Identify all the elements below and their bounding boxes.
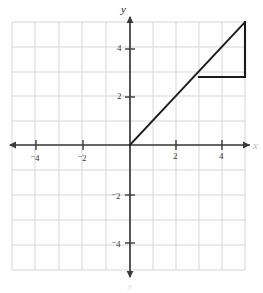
y-tick-label-neg4: –4 xyxy=(112,238,121,249)
x-tick-label-neg4: –4 xyxy=(31,152,40,163)
y-tick-label-2: 2 xyxy=(117,92,122,101)
x-axis-label: x xyxy=(253,140,258,151)
x-tick-label-neg2: –2 xyxy=(78,152,87,163)
x-tick-label-2: 2 xyxy=(173,152,178,161)
coordinate-plane-figure: y x y –4 –2 2 4 4 2 –2 –4 xyxy=(0,0,263,293)
axis-y-arrow-up xyxy=(127,16,134,23)
y-tick-label-4: 4 xyxy=(117,44,122,53)
x-tick-label-4: 4 xyxy=(219,152,224,161)
diagonal-ray xyxy=(130,22,245,145)
y-tick-label-neg2: –2 xyxy=(112,190,121,201)
y-axis-label: y xyxy=(121,4,126,15)
bottom-stray-mark: y xyxy=(128,283,132,291)
axis-x-arrow-right xyxy=(243,142,250,149)
axis-y-arrow-down xyxy=(127,271,134,278)
graph-canvas xyxy=(0,0,263,293)
